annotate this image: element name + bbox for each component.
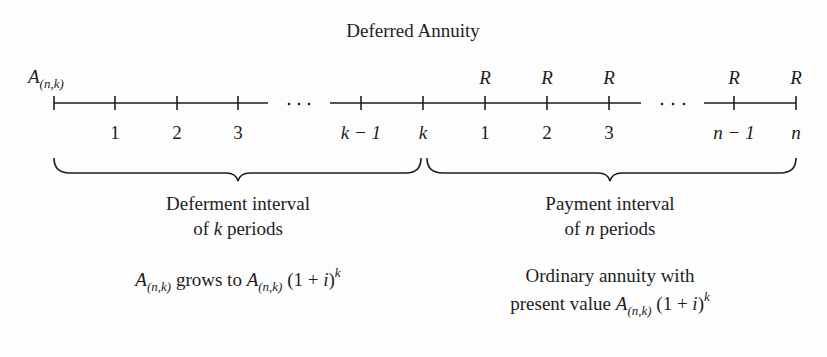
payment-heading: Payment interval — [545, 194, 674, 213]
payment-R-2: R — [541, 68, 553, 87]
tick-label-p3: 3 — [604, 123, 614, 142]
payment-R-n: R — [790, 68, 802, 87]
tick-label-d2: 2 — [172, 123, 182, 142]
text: (1 + — [652, 293, 693, 314]
var-A: A — [616, 293, 628, 314]
text: of — [193, 218, 214, 239]
text: periods — [222, 218, 283, 239]
text: grows to — [171, 269, 246, 290]
label-A: A — [28, 66, 40, 87]
text: periods — [595, 218, 656, 239]
payment-R-n-1: R — [728, 68, 740, 87]
text: (1 + — [282, 269, 323, 290]
tick-label-d1: 1 — [110, 123, 120, 142]
tick-label-d3: 3 — [233, 123, 243, 142]
deferred-annuity-diagram: Deferred Annuity A(n,k) R R R R R 1 2 3 … — [0, 0, 827, 357]
var-A: A — [247, 269, 259, 290]
diagram-title: Deferred Annuity — [346, 21, 479, 40]
var-A: A — [135, 269, 147, 290]
subscript: (n,k) — [147, 279, 171, 294]
exponent: k — [335, 265, 341, 280]
label-subscript: (n,k) — [40, 76, 64, 91]
var-k: k — [214, 218, 222, 239]
tick-label-n: n — [791, 123, 801, 142]
text: of — [565, 218, 586, 239]
tick-label-p2: 2 — [542, 123, 552, 142]
tick-label-p1: 1 — [480, 123, 490, 142]
deferment-heading: Deferment interval — [166, 194, 310, 213]
tick-label-k: k — [419, 123, 427, 142]
payment-formula: present value A(n,k) (1 + i)k — [510, 290, 710, 317]
present-value-label: A(n,k) — [28, 67, 64, 90]
subscript: (n,k) — [258, 279, 282, 294]
text: present value — [510, 293, 616, 314]
deferment-brace — [54, 158, 421, 181]
payment-R-3: R — [603, 68, 615, 87]
tick-label-k-minus-1: k − 1 — [341, 123, 381, 142]
deferment-formula: A(n,k) grows to A(n,k) (1 + i)k — [135, 266, 340, 293]
subscript: (n,k) — [627, 303, 651, 318]
tick-label-n-minus-1: n − 1 — [713, 123, 754, 142]
payment-R-1: R — [479, 68, 491, 87]
payment-brace — [427, 158, 796, 181]
ordinary-annuity-label: Ordinary annuity with — [526, 266, 695, 285]
payment-periods: of n periods — [565, 219, 656, 238]
deferment-periods: of k periods — [193, 219, 283, 238]
exponent: k — [704, 289, 710, 304]
var-n: n — [585, 218, 595, 239]
